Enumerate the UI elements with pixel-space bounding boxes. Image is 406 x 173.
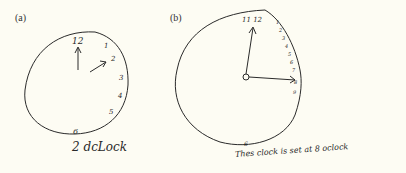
clock-face-outline (175, 10, 301, 145)
numeral-6: 6 (73, 127, 78, 136)
caption-a: 2 dcLock (72, 140, 127, 154)
numerals-11-12: 11 12 (242, 16, 263, 24)
numeral-12: 12 (72, 36, 84, 46)
clock-panel-a: (a) 12 1 2 3 4 5 6 2 dcLock (0, 0, 150, 173)
numeral-5: 5 (109, 108, 114, 116)
numeral-2: 2 (110, 55, 116, 63)
numeral-8: 8 (294, 79, 297, 85)
minute-hand (90, 62, 106, 72)
clock-panel-b: (b) 11 12 1 2 3 4 5 6 7 8 9 6 Thes clock… (150, 0, 406, 173)
numeral-9: 9 (293, 89, 297, 95)
hand-right (249, 77, 295, 80)
clock-center (243, 74, 249, 80)
numeral-3: 3 (119, 74, 124, 82)
numeral-7: 7 (292, 67, 296, 73)
numeral-4: 4 (117, 92, 122, 100)
clock-face-outline (25, 32, 128, 134)
hand-up (246, 28, 253, 74)
numeral-bottom-6: 6 (244, 140, 248, 147)
numeral-5: 5 (288, 51, 291, 57)
numeral-4: 4 (284, 43, 288, 49)
numeral-3: 3 (282, 35, 285, 41)
numeral-6: 6 (290, 59, 294, 65)
numeral-1: 1 (276, 19, 279, 25)
numeral-2: 2 (278, 27, 282, 33)
numeral-1: 1 (104, 42, 108, 50)
